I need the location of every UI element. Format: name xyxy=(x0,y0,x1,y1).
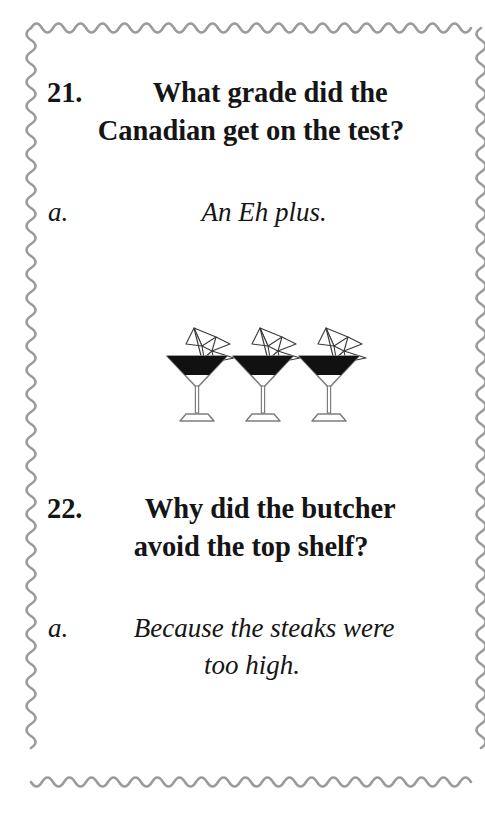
question-2-text-line-2: avoid the top shelf? xyxy=(44,528,464,566)
answer-2-label: a. xyxy=(44,610,68,647)
question-1: 21. What grade did the Canadian get on t… xyxy=(44,74,464,150)
cocktail-glasses-icon xyxy=(156,318,386,433)
glass-base-1 xyxy=(180,414,214,421)
wavy-border-left xyxy=(27,28,36,748)
answer-1-line-1: a. An Eh plus. xyxy=(44,194,464,231)
question-2-number: 22. xyxy=(44,490,82,528)
joke-item-2: 22. Why did the butcher avoid the top sh… xyxy=(44,490,464,683)
cocktail-glass-2 xyxy=(233,328,300,421)
joke-book-page: 21. What grade did the Canadian get on t… xyxy=(0,0,485,828)
answer-2-text-line-1: Because the steaks were xyxy=(68,610,464,647)
glass-stem-3 xyxy=(327,386,330,413)
answer-2: a. Because the steaks were too high. xyxy=(44,610,464,683)
glass-liquid-2 xyxy=(233,356,293,375)
glass-base-3 xyxy=(312,414,346,421)
question-1-number: 21. xyxy=(44,74,82,112)
cocktail-glass-3 xyxy=(299,328,366,421)
answer-2-line-1: a. Because the steaks were xyxy=(44,610,464,647)
question-1-line-1: 21. What grade did the xyxy=(44,74,464,112)
question-2-line-1: 22. Why did the butcher xyxy=(44,490,464,528)
question-2: 22. Why did the butcher avoid the top sh… xyxy=(44,490,464,566)
glass-liquid-3 xyxy=(299,356,359,375)
page-content: 21. What grade did the Canadian get on t… xyxy=(44,24,464,784)
answer-1-text-line-1: An Eh plus. xyxy=(68,194,464,231)
answer-1-label: a. xyxy=(44,194,68,231)
answer-2-text-line-2: too high. xyxy=(44,647,464,684)
cocktail-glass-1 xyxy=(167,328,234,421)
answer-1: a. An Eh plus. xyxy=(44,194,464,231)
question-1-text-line-1: What grade did the xyxy=(82,74,464,112)
glass-base-2 xyxy=(246,414,280,421)
glass-stem-1 xyxy=(195,386,198,413)
question-1-text-line-2: Canadian get on the test? xyxy=(44,112,464,150)
joke-item-1: 21. What grade did the Canadian get on t… xyxy=(44,74,464,231)
wavy-border-right xyxy=(477,28,485,748)
glass-stem-2 xyxy=(261,386,264,413)
question-2-text-line-1: Why did the butcher xyxy=(82,490,464,528)
glass-liquid-1 xyxy=(167,356,227,375)
